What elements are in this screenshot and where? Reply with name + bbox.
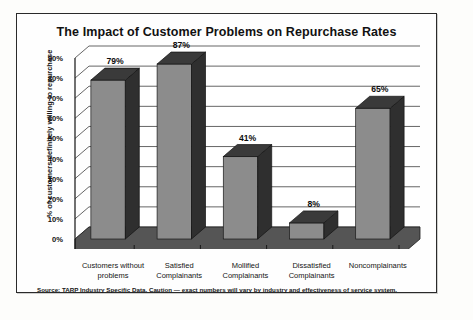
y-axis-tick-label: 50% (48, 134, 63, 143)
chart-title: The Impact of Customer Problems on Repur… (17, 25, 436, 39)
y-axis-tick-label: 30% (48, 174, 63, 183)
y-axis-tick-label: 70% (48, 94, 63, 103)
category-label-line: Complainants (222, 271, 268, 281)
x-axis-category-label: SatisfiedComplainants (156, 261, 202, 280)
category-label-line: Dissatisfied (289, 261, 335, 271)
y-axis-tick-label: 40% (48, 154, 63, 163)
category-label-line: Satisfied (156, 261, 202, 271)
category-label-line: problems (82, 271, 144, 281)
bar-value-label: 79% (106, 56, 123, 66)
bar-value-label: 87% (173, 40, 190, 50)
y-axis-tick-label: 60% (48, 114, 63, 123)
x-axis-category-label: DissatisfiedComplainants (289, 261, 335, 280)
y-axis-tick-label: 80% (48, 74, 63, 83)
category-label-line: Customers without (82, 261, 144, 271)
category-label-line: Complainants (289, 271, 335, 281)
category-label-line: Mollified (222, 261, 268, 271)
x-axis-tick-labels: Customers withoutproblemsSatisfiedCompla… (67, 255, 422, 281)
source-note: Source: TARP Industry Specific Data. Cau… (37, 286, 427, 293)
y-axis-tick-label: 0% (52, 235, 63, 244)
chart-page: The Impact of Customer Problems on Repur… (0, 0, 473, 320)
y-axis-tick-label: 20% (48, 194, 63, 203)
y-axis-tick-label: 10% (48, 214, 63, 223)
y-axis-tick-labels: 0%10%20%30%40%50%60%70%80%90% (37, 44, 63, 249)
x-axis-category-label: Noncomplainants (349, 261, 407, 271)
bar-value-label: 8% (307, 199, 319, 209)
category-label-line: Noncomplainants (349, 261, 407, 271)
x-axis-category-label: Customers withoutproblems (82, 261, 144, 280)
y-axis-tick-label: 90% (48, 54, 63, 63)
category-label-line: Complainants (156, 271, 202, 281)
plot-svg (67, 44, 422, 249)
chart-frame: The Impact of Customer Problems on Repur… (16, 13, 437, 293)
bar-value-label: 65% (371, 84, 388, 94)
x-axis-category-label: MollifiedComplainants (222, 261, 268, 280)
bar-value-label: 41% (239, 133, 256, 143)
plot-area: 79%87%41%8%65% (67, 44, 422, 249)
